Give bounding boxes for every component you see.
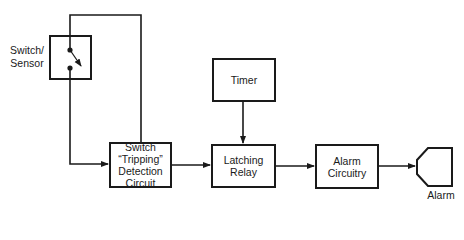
detection-line3: Detection [118, 165, 162, 177]
alarm-label: Alarm [424, 189, 458, 202]
switch-sensor-label-line2: Sensor [5, 57, 49, 70]
latching-relay-label: Latching Relay [212, 145, 275, 187]
latching-relay-line1: Latching [224, 154, 264, 166]
detection-line2: “Tripping” [118, 153, 163, 165]
switch-sensor-label: Switch/ Sensor [5, 44, 49, 70]
switch-sensor-label-line1: Switch/ [5, 44, 49, 57]
alarm-circuitry-label: Alarm Circuitry [316, 145, 378, 188]
alarm-circuitry-line2: Circuitry [328, 167, 367, 179]
alarm-horn-icon [417, 148, 452, 186]
detection-circuit-label: Switch “Tripping” Detection Circuit [110, 143, 171, 187]
latching-relay-line2: Relay [230, 166, 257, 178]
sensor-to-detection-wire [70, 68, 108, 164]
detection-line1: Switch [125, 141, 156, 153]
alarm-circuitry-line1: Alarm [333, 155, 360, 167]
timer-label: Timer [213, 59, 275, 101]
switch-lever-icon [70, 50, 81, 66]
timer-label-text: Timer [231, 74, 257, 86]
detection-line4: Circuit [126, 177, 156, 189]
